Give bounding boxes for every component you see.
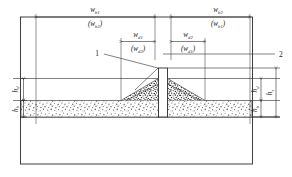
dimension-height-right-total: hs: [266, 90, 275, 96]
diagram-canvas: wb1 (wb2) wb2 (wb1) wd1 (wd2): [0, 0, 292, 177]
dimension-inner-right: wd2 (wd1): [171, 31, 205, 54]
scour-cone-right: [168, 79, 206, 101]
pier-scour-diagram: wb1 (wb2) wb2 (wb1) wd1 (wd2): [0, 0, 292, 177]
dimension-outer-left-alternate: (wb2): [88, 20, 103, 29]
dimension-height-left-upper: hd: [12, 86, 21, 93]
dimension-height-right: hd hb hs: [251, 68, 276, 117]
bridge-pier: [159, 68, 168, 117]
dimension-inner-left-alternate: (wd2): [131, 45, 146, 54]
sediment-bed: [21, 101, 252, 118]
dimension-inner-right-primary: wd2: [183, 31, 193, 40]
dimension-inner-left: wd1 (wd2): [121, 31, 155, 54]
dimension-inner-left-primary: wd1: [133, 31, 142, 40]
dimension-height-left-lower: hb: [12, 105, 21, 112]
scour-cone-left: [121, 79, 159, 101]
dimension-outer-left-primary: wb1: [90, 6, 99, 15]
callout-1-label: 1: [95, 49, 99, 58]
dimension-outer-right-primary: wb2: [213, 6, 223, 15]
dimension-inner-right-alternate: (wd1): [181, 45, 196, 54]
dimension-outer-right-alternate: (wb1): [211, 20, 226, 29]
callout-1: 1: [95, 49, 158, 90]
callout-2-label: 2: [279, 50, 283, 59]
